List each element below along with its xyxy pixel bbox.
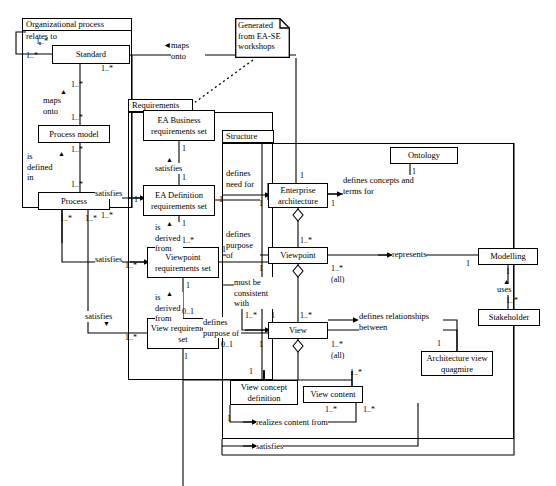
class-label: Architecture view quagmire xyxy=(422,353,492,374)
package-label: Structure xyxy=(226,132,257,141)
arrow-marker-is-derived-from-2: ▲ xyxy=(166,289,173,300)
class-label: Viewpoint xyxy=(280,250,315,261)
multiplicity: 1 xyxy=(259,340,263,349)
assoc-label-defines-concepts-and-terms-for: defines concepts and terms for xyxy=(343,175,415,196)
multiplicity: 1..* xyxy=(60,214,72,223)
arrow-marker-uses: ▲ xyxy=(503,277,510,288)
assoc-label-defines-purpose-of-viewpoint: defines purpose of xyxy=(226,229,260,261)
assoc-text: satisfies xyxy=(95,254,122,264)
assoc-text: realizes content from xyxy=(256,417,328,427)
multiplicity: 1 xyxy=(182,219,186,228)
class-ea-definition-requirements-set[interactable]: EA Definition requirements set xyxy=(143,185,215,216)
assoc-text: satisfies xyxy=(95,188,122,198)
class-label: View xyxy=(289,325,307,336)
assoc-label-represents: represents xyxy=(392,249,426,260)
multiplicity: 1 xyxy=(222,245,226,254)
multiplicity: 1..* xyxy=(363,405,375,414)
class-stakeholder[interactable]: Stakeholder xyxy=(478,309,540,326)
arrow-marker-is-defined-in: ▲ xyxy=(58,149,65,160)
assoc-text: defines purpose of xyxy=(226,229,253,260)
multiplicity: 1..* xyxy=(331,340,343,349)
multiplicity: 1..* xyxy=(101,64,113,73)
multiplicity: 1 xyxy=(182,173,186,182)
class-viewpoint[interactable]: Viewpoint xyxy=(268,247,328,264)
package-label: Requirements xyxy=(132,101,179,110)
class-enterprise-architecture[interactable]: Enterprise architecture xyxy=(268,183,328,208)
multiplicity: 1..* xyxy=(331,264,343,273)
multiplicity: 1 xyxy=(184,352,188,361)
assoc-text: satisfies xyxy=(256,441,283,451)
class-label: Viewpoint requirements set xyxy=(148,252,218,273)
assoc-label-defines-relationships-between: defines relationships between xyxy=(359,311,443,332)
multiplicity: 1 xyxy=(466,259,470,268)
multiplicity: 1..* xyxy=(71,113,83,122)
class-label: View content xyxy=(310,389,355,400)
class-ea-business-requirements-set[interactable]: EA Business requirements set xyxy=(143,110,215,141)
class-label: Process model xyxy=(49,129,98,140)
multiplicity: 1..* xyxy=(350,368,362,377)
multiplicity: 1 xyxy=(506,267,510,276)
multiplicity: 1..* xyxy=(182,236,194,245)
arrow-marker-is-derived-from-1: ▲ xyxy=(166,219,173,230)
multiplicity: 1..* xyxy=(71,80,83,89)
assoc-text: is defined in xyxy=(27,151,53,182)
class-label: EA Definition requirements set xyxy=(144,190,214,211)
assoc-text: represents xyxy=(392,249,426,259)
assoc-label-defines-purpose-of-view: defines purpose of xyxy=(203,317,241,338)
multiplicity: 1..* xyxy=(325,405,337,414)
arrow-marker-satisfies-eabusiness: ▲ xyxy=(166,155,173,166)
assoc-text: defines need for xyxy=(226,168,254,189)
multiplicity: 0..1 xyxy=(182,307,194,316)
assoc-label-realizes-content-from: realizes content from xyxy=(256,417,328,428)
package-organizational-process-tab: Organizational process xyxy=(22,18,132,31)
multiplicity: 1..* xyxy=(300,311,312,320)
class-architecture-view-quagmire[interactable]: Architecture view quagmire xyxy=(421,351,493,376)
arrow-marker-maps-onto-1: ◄ xyxy=(163,40,171,51)
multiplicity: 1 xyxy=(219,195,223,204)
multiplicity: 1 xyxy=(182,144,186,153)
assoc-label-is-defined-in: is defined in xyxy=(27,151,59,183)
multiplicity: 1 xyxy=(134,195,138,204)
class-label: Stakeholder xyxy=(489,312,530,323)
multiplicity: 1 xyxy=(249,367,253,376)
class-view-content[interactable]: View content xyxy=(303,386,363,403)
assoc-label-must-be-consistent-with: must be consistent with xyxy=(234,277,276,309)
class-label: Ontology xyxy=(408,150,440,161)
multiplicity: 1..* xyxy=(101,211,113,220)
multiplicity: 1 xyxy=(259,264,263,273)
class-ontology[interactable]: Ontology xyxy=(390,147,458,164)
multiplicity: 1..* xyxy=(125,333,137,342)
class-process-model[interactable]: Process model xyxy=(38,125,110,143)
multiplicity: 1 xyxy=(186,281,190,290)
multiplicity: 1..* xyxy=(300,236,312,245)
class-label: View concept definition xyxy=(231,382,297,403)
multiplicity: 1..* xyxy=(71,180,83,189)
note-text: Generated from EA-SE workshops xyxy=(238,20,287,52)
class-label: Process xyxy=(61,196,87,207)
assoc-text: defines concepts and terms for xyxy=(343,175,414,196)
assoc-text: defines purpose of xyxy=(203,317,239,338)
class-view[interactable]: View xyxy=(268,322,328,339)
class-label: EA Business requirements set xyxy=(144,115,214,136)
multiplicity: 1..* xyxy=(245,311,257,320)
assoc-text: defines relationships between xyxy=(359,311,429,332)
class-label: Enterprise architecture xyxy=(269,185,327,206)
class-label: Standard xyxy=(76,49,106,60)
note-generated-from-ea-se-workshops: Generated from EA-SE workshops xyxy=(235,18,290,58)
multiplicity: (all) xyxy=(331,275,344,284)
class-view-concept-definition[interactable]: View concept definition xyxy=(230,380,298,405)
class-standard[interactable]: Standard xyxy=(52,45,130,64)
assoc-label-satisfies-bottom: satisfies xyxy=(256,441,283,452)
multiplicity: 0..1 xyxy=(221,340,233,349)
arrow-marker-satisfies-process-viewreq: ▼ xyxy=(103,319,110,330)
multiplicity: 1..* xyxy=(125,261,137,270)
assoc-label-satisfies-process-eadef: satisfies xyxy=(95,188,122,199)
class-label: Modelling xyxy=(490,251,525,262)
assoc-text: must be consistent with xyxy=(234,277,268,308)
arrow-marker-maps-onto-2: ▲ xyxy=(60,87,67,98)
multiplicity: 1..* xyxy=(85,214,97,223)
multiplicity: 1 xyxy=(412,167,416,176)
class-modelling[interactable]: Modelling xyxy=(478,248,538,265)
multiplicity: 1 xyxy=(259,199,263,208)
multiplicity: 1 xyxy=(437,339,441,348)
